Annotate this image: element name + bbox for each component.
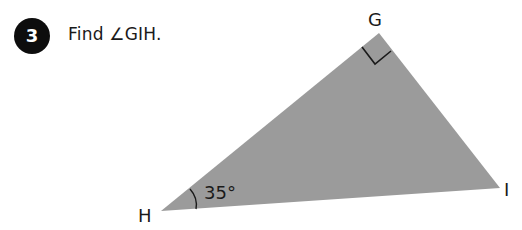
vertex-label-g: G — [368, 9, 382, 30]
angle-h-label: 35° — [204, 182, 236, 203]
vertex-label-h: H — [138, 205, 152, 226]
vertex-label-i: I — [504, 179, 509, 200]
triangle-figure: 35° G H I — [0, 0, 522, 230]
